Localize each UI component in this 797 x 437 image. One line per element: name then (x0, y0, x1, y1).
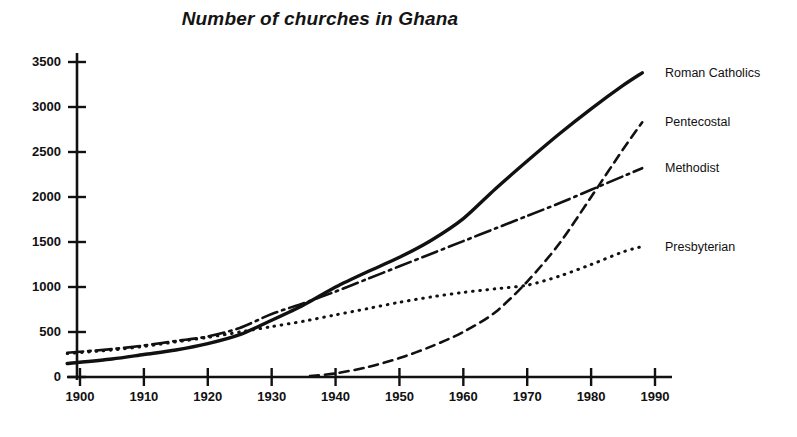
x-tick-label: 1900 (66, 389, 95, 404)
y-tick-label: 2000 (32, 189, 61, 204)
series-end-label-methodist: Methodist (665, 162, 719, 175)
y-tick-label: 0 (54, 369, 61, 384)
y-axis: 0500100015002000250030003500 (32, 53, 86, 384)
y-tick-label: 2500 (32, 144, 61, 159)
x-tick-label: 1960 (449, 389, 478, 404)
x-tick-label: 1930 (257, 389, 286, 404)
y-tick-label: 1500 (32, 234, 61, 249)
x-tick-label: 1940 (321, 389, 350, 404)
series-line-pentecostal (310, 122, 642, 376)
y-tick-label: 3000 (32, 99, 61, 114)
y-tick-label: 1000 (32, 279, 61, 294)
series-line-presbyterian (67, 247, 642, 354)
series-end-label-presbyterian: Presbyterian (665, 241, 735, 254)
x-tick-label: 1990 (641, 389, 670, 404)
chart-figure: Number of churches in Ghana 050010001500… (0, 0, 797, 437)
x-tick-label: 1950 (385, 389, 414, 404)
x-tick-label: 1920 (193, 389, 222, 404)
x-tick-label: 1910 (129, 389, 158, 404)
series-line-roman-catholics (67, 73, 642, 364)
series-layer (67, 73, 642, 376)
series-end-label-roman-catholics: Roman Catholics (665, 67, 760, 80)
x-axis: 1900191019201930194019501960197019801990 (66, 368, 672, 404)
y-tick-label: 500 (39, 324, 61, 339)
x-tick-label: 1970 (513, 389, 542, 404)
x-tick-label: 1980 (577, 389, 606, 404)
y-tick-label: 3500 (32, 54, 61, 69)
series-line-methodist (67, 168, 642, 353)
series-end-label-pentecostal: Pentecostal (665, 116, 730, 129)
